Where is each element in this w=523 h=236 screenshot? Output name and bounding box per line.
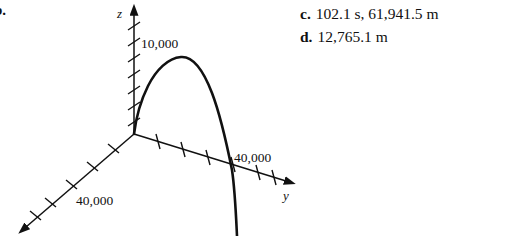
z-axis-tick-value: 10,000 xyxy=(141,36,178,51)
y-axis-tick-value: 40,000 xyxy=(234,150,271,165)
answer-c-text: 102.1 s, 61,941.5 m xyxy=(316,5,439,22)
answer-d-key: d. xyxy=(300,28,313,45)
answer-option-d: d.12,765.1 m xyxy=(300,29,388,45)
answer-option-c: c.102.1 s, 61,941.5 m xyxy=(300,6,438,22)
x-axis-group: 40,000 xyxy=(26,134,134,227)
x-axis-ticks xyxy=(30,144,119,220)
answer-d-text: 12,765.1 m xyxy=(318,28,388,45)
z-axis-label: z xyxy=(116,6,122,21)
z-axis-group: z 10,000 xyxy=(116,6,178,134)
x-axis-tick-value: 40,000 xyxy=(76,193,113,208)
y-axis-group: y 40,000 xyxy=(134,134,289,203)
three-d-axes-diagram: z 10,000 y 40,000 xyxy=(0,0,523,236)
answer-c-key: c. xyxy=(300,5,311,22)
y-axis-label: y xyxy=(281,188,289,203)
figure-container: b. z 10,0 xyxy=(0,0,523,236)
projectile-trajectory-curve xyxy=(134,57,237,236)
x-axis-line xyxy=(26,134,134,227)
trajectory-curve-group xyxy=(134,57,237,236)
